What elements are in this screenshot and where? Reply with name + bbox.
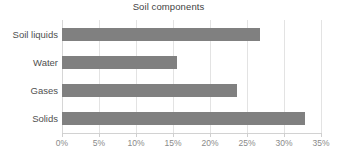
bar-row <box>62 112 321 125</box>
tick-mark-5pct <box>99 133 100 137</box>
x-tick-label: 10% <box>127 138 144 148</box>
bar-water <box>62 56 177 69</box>
x-tick-label: 5% <box>93 138 105 148</box>
x-tick-label: 35% <box>312 138 329 148</box>
gridline-35pct <box>321 20 322 133</box>
tick-mark-0pct <box>62 133 63 137</box>
x-tick-label: 0% <box>56 138 68 148</box>
bar-chart: Soil components Soil liquidsWaterGasesSo… <box>0 0 337 164</box>
chart-title: Soil components <box>0 1 337 12</box>
plot-area <box>62 20 321 133</box>
x-tick-label: 25% <box>238 138 255 148</box>
category-label-solids: Solids <box>0 112 58 125</box>
x-tick-label: 15% <box>164 138 181 148</box>
tick-mark-20pct <box>210 133 211 137</box>
x-tick-label: 30% <box>275 138 292 148</box>
bar-solids <box>62 112 305 125</box>
x-tick-label: 20% <box>201 138 218 148</box>
tick-mark-10pct <box>136 133 137 137</box>
tick-mark-15pct <box>173 133 174 137</box>
bar-row <box>62 84 321 97</box>
category-label-soil-liquids: Soil liquids <box>0 28 58 41</box>
bar-gases <box>62 84 237 97</box>
category-label-water: Water <box>0 56 58 69</box>
bar-row <box>62 56 321 69</box>
tick-mark-35pct <box>321 133 322 137</box>
tick-mark-30pct <box>284 133 285 137</box>
bar-soil-liquids <box>62 28 260 41</box>
category-axis-labels: Soil liquidsWaterGasesSolids <box>0 20 58 133</box>
tick-mark-25pct <box>247 133 248 137</box>
bar-row <box>62 28 321 41</box>
category-label-gases: Gases <box>0 84 58 97</box>
